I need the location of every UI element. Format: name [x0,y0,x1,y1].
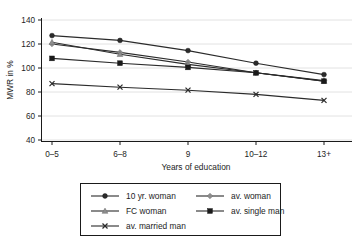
x-tick-label: 13+ [317,150,331,159]
data-point-circle [103,194,108,199]
data-point-circle [254,61,259,66]
x-tick-label: 0–5 [45,150,59,159]
data-point-circle [186,48,191,53]
y-tick-label: 120 [21,40,35,49]
x-tick-label: 6–8 [113,150,127,159]
data-point-square [322,79,327,84]
data-point-square [118,61,123,66]
y-tick-label: 40 [26,136,36,145]
legend: 10 yr. womanav. womanFC womanav. single … [81,184,285,236]
legend-label: av. woman [231,191,271,201]
y-tick-label: 60 [26,112,36,121]
y-axis-title: MWR in % [5,60,15,100]
legend-label: av. married man [126,221,186,231]
data-point-square [50,56,55,61]
chart-figure: 406080100120140 0–56–8910–1213+ Years of… [0,0,361,242]
data-point-circle [322,72,327,77]
legend-label: 10 yr. woman [126,191,176,201]
x-axis-title: Years of education [161,162,230,172]
line-chart: 406080100120140 0–56–8910–1213+ Years of… [0,0,361,242]
y-tick-label: 100 [21,64,35,73]
x-tick-label: 9 [186,150,191,159]
legend-label: FC woman [126,206,167,216]
x-tick-label: 10–12 [245,150,268,159]
data-point-circle [118,38,123,43]
y-tick-label: 140 [21,16,35,25]
data-point-square [186,65,191,70]
legend-label: av. single man [231,206,285,216]
data-point-circle [50,33,55,38]
y-tick-label: 80 [26,88,36,97]
data-point-square [208,209,213,214]
data-point-square [254,70,259,75]
